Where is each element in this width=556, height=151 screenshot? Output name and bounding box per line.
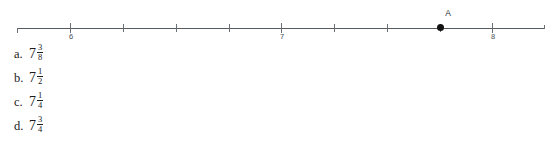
choice-denominator-b: 2 [37, 76, 43, 86]
choice-numerator-a: 3 [37, 43, 43, 52]
answer-choice-list: a. 7 3 8 b. 7 1 2 c. 7 1 4 d. 7 [14, 45, 154, 141]
choice-denominator-a: 8 [37, 52, 43, 62]
axis-end-cap-right [544, 25, 545, 29]
plotted-point-a-label: A [438, 8, 458, 18]
choice-denominator-c: 4 [37, 100, 43, 110]
choice-letter-a: a. [14, 45, 28, 62]
choice-fraction-d: 3 4 [37, 115, 43, 134]
choice-denominator-d: 4 [37, 124, 43, 134]
answer-choice-d[interactable]: d. 7 3 4 [14, 117, 154, 141]
choice-letter-c: c. [14, 93, 28, 110]
choice-letter-d: d. [14, 117, 28, 134]
choice-whole-c: 7 [28, 93, 37, 109]
choice-fraction-a: 3 8 [37, 43, 43, 62]
choice-whole-d: 7 [28, 117, 37, 133]
answer-choice-b[interactable]: b. 7 1 2 [14, 69, 154, 93]
number-line-diagram: 6 7 8 A [0, 0, 556, 48]
axis-tick-7-25 [334, 24, 335, 32]
axis-tick-6-25 [123, 24, 124, 32]
plotted-point-a [437, 24, 444, 31]
axis-label-6: 6 [61, 32, 81, 41]
choice-fraction-b: 1 2 [37, 67, 43, 86]
choice-whole-b: 7 [28, 69, 37, 85]
choice-whole-a: 7 [28, 45, 37, 61]
choice-letter-b: b. [14, 69, 28, 86]
choice-numerator-b: 1 [37, 67, 43, 76]
worksheet-page: 6 7 8 A a. 7 3 8 b. 7 1 2 c. 7 [0, 0, 556, 151]
axis-end-cap-left [17, 28, 18, 33]
answer-choice-a[interactable]: a. 7 3 8 [14, 45, 154, 69]
choice-numerator-c: 1 [37, 91, 43, 100]
choice-fraction-c: 1 4 [37, 91, 43, 110]
axis-tick-6-75 [229, 24, 230, 32]
axis-tick-7-5 [387, 24, 388, 32]
choice-numerator-d: 3 [37, 115, 43, 124]
axis-tick-6-5 [176, 24, 177, 32]
axis-label-8: 8 [483, 32, 503, 41]
axis-label-7: 7 [272, 32, 292, 41]
answer-choice-c[interactable]: c. 7 1 4 [14, 93, 154, 117]
